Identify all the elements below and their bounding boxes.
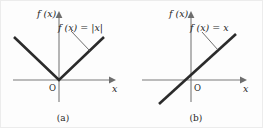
y-axis-arrow-icon-b bbox=[188, 11, 195, 18]
x-axis-label-b: x bbox=[243, 83, 249, 94]
equation-label-b: f (x) = x bbox=[189, 22, 229, 33]
equation-leader-line-b bbox=[202, 32, 218, 50]
origin-label-b: O bbox=[194, 83, 201, 93]
caption-b: (b) bbox=[190, 113, 203, 123]
y-axis-arrow-icon-a bbox=[56, 11, 63, 18]
figure-container: f (x) x O f (x) = |x| (a) f (x) x O f (x… bbox=[0, 0, 263, 128]
panel-a: f (x) x O f (x) = |x| (a) bbox=[1, 1, 132, 128]
identity-line-curve bbox=[159, 34, 236, 104]
panel-b: f (x) x O f (x) = x (b) bbox=[132, 1, 263, 128]
equation-label-a: f (x) = |x| bbox=[57, 22, 103, 34]
equation-leader-line-a bbox=[71, 31, 90, 51]
x-axis-label-a: x bbox=[112, 83, 118, 94]
y-axis-label-b: f (x) bbox=[168, 8, 189, 19]
caption-a: (a) bbox=[57, 113, 69, 123]
origin-label-a: O bbox=[49, 83, 56, 93]
y-axis-label-a: f (x) bbox=[36, 8, 57, 19]
